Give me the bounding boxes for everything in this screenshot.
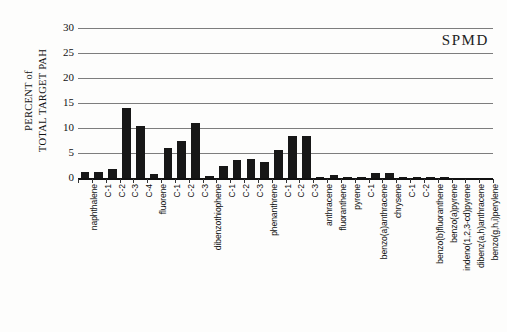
bar — [164, 148, 173, 179]
bar — [302, 136, 311, 179]
x-tick-label: naphthalene — [89, 184, 100, 324]
x-tick-label: anthracene — [324, 184, 335, 324]
x-tick — [133, 179, 134, 183]
x-tick — [175, 179, 176, 183]
bar — [260, 162, 269, 179]
bar — [219, 166, 228, 179]
x-tick-label: fluorene — [158, 184, 169, 324]
x-tick — [410, 179, 411, 183]
x-tick — [272, 179, 273, 183]
x-tick-label: benzo(a)anthracene — [379, 184, 390, 324]
x-tick-label: benzo(b)fluoranthene — [435, 184, 446, 324]
x-tick-label: C-1 — [366, 184, 377, 324]
x-tick — [189, 179, 190, 183]
y-tick-label: 20 — [50, 71, 74, 83]
x-tick — [355, 179, 356, 183]
x-tick — [313, 179, 314, 183]
y-tick-label: 0 — [50, 171, 74, 183]
x-tick — [452, 179, 453, 183]
bar — [122, 108, 131, 178]
bar — [247, 159, 256, 178]
y-tick-label: 25 — [50, 46, 74, 58]
x-tick — [147, 179, 148, 183]
bar-series — [78, 28, 493, 178]
x-tick-label: indeno(1,2,3-cd)pyrene — [462, 184, 473, 324]
x-tick-label: C-4 — [144, 184, 155, 324]
x-tick-label: chrysene — [393, 184, 404, 324]
x-tick — [396, 179, 397, 183]
x-tick-label: phenanthrene — [269, 184, 280, 324]
x-tick-label: benzo(g,h,i)perylene — [490, 184, 501, 324]
bar — [191, 123, 200, 179]
y-axis-tick-labels: 051015202530 — [48, 28, 74, 178]
x-tick-label: fluoranthene — [338, 184, 349, 324]
x-tick-label: dibenzothiophene — [213, 184, 224, 324]
bar — [233, 160, 242, 178]
x-tick — [203, 179, 204, 183]
x-tick-label: C-2 — [241, 184, 252, 324]
x-tick — [465, 179, 466, 183]
x-tick — [327, 179, 328, 183]
x-tick-label: C-2 — [421, 184, 432, 324]
x-tick — [120, 179, 121, 183]
x-tick-label: C-1 — [103, 184, 114, 324]
x-tick — [216, 179, 217, 183]
x-tick-label: C-3 — [310, 184, 321, 324]
bar — [108, 169, 117, 179]
bar — [288, 136, 297, 178]
x-tick — [438, 179, 439, 183]
x-tick — [230, 179, 231, 183]
chart-figure: PERCENT of TOTAL TARGET PAH 051015202530… — [0, 0, 507, 332]
x-tick — [244, 179, 245, 183]
x-tick-label: C-3 — [200, 184, 211, 324]
x-tick-label: C-2 — [296, 184, 307, 324]
x-tick-label: pyrene — [352, 184, 363, 324]
x-tick — [258, 179, 259, 183]
x-tick — [92, 179, 93, 183]
bar — [274, 150, 283, 179]
x-tick-label: C-2 — [186, 184, 197, 324]
x-tick — [106, 179, 107, 183]
x-tick — [369, 179, 370, 183]
x-tick — [299, 179, 300, 183]
x-tick-label: C-2 — [117, 184, 128, 324]
y-tick-label: 30 — [50, 21, 74, 33]
y-tick-label: 15 — [50, 96, 74, 108]
bar — [177, 141, 186, 179]
x-tick-label: C-1 — [227, 184, 238, 324]
y-axis-title-line-1: PERCENT of — [23, 18, 37, 183]
x-tick-label: dibenz(a,h)anthracene — [476, 184, 487, 324]
x-tick — [479, 179, 480, 183]
x-tick-label: C-1 — [283, 184, 294, 324]
x-tick — [424, 179, 425, 183]
x-tick — [341, 179, 342, 183]
y-tick-label: 5 — [50, 146, 74, 158]
y-tick-label: 10 — [50, 121, 74, 133]
x-axis-tick-labels: naphthaleneC-1C-2C-3C-4fluoreneC-1C-2C-3… — [78, 184, 493, 329]
x-axis-tick-marks — [78, 179, 493, 183]
x-tick-label: C-1 — [407, 184, 418, 324]
x-tick-label: C-3 — [255, 184, 266, 324]
x-tick-label: C-1 — [172, 184, 183, 324]
x-tick — [382, 179, 383, 183]
chart-annotation-spmd: SPMD — [442, 32, 489, 49]
x-tick-label: C-3 — [130, 184, 141, 324]
x-tick-label: benzo(a)pyrene — [449, 184, 460, 324]
x-tick — [493, 179, 494, 183]
bar — [136, 126, 145, 178]
x-tick — [286, 179, 287, 183]
x-tick — [161, 179, 162, 183]
x-tick — [78, 179, 79, 183]
